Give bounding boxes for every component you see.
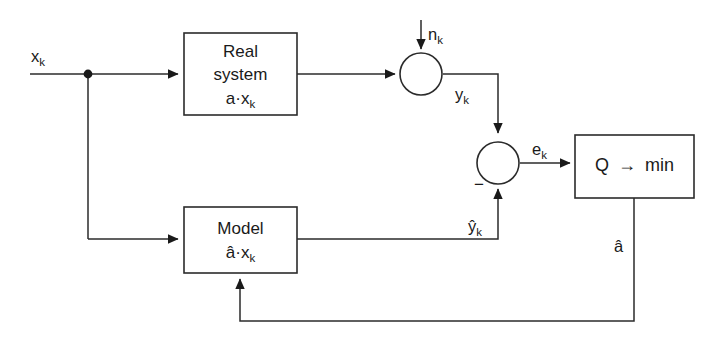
real-system-line1: Real: [223, 42, 258, 61]
wire-parameter-feedback: [240, 198, 634, 321]
label-noise-subscript: k: [437, 34, 443, 46]
label-output-signal: yk: [455, 85, 469, 106]
criterion-arrow-icon: →: [618, 155, 636, 175]
wire-output-to-sum-error: [443, 74, 498, 133]
block-diagram: Real system a·xk Model â·xk Q→min xk nk …: [0, 0, 726, 339]
summing-junction-noise: [400, 53, 442, 95]
label-noise-signal: nk: [428, 25, 443, 46]
label-output-subscript: k: [463, 94, 469, 106]
real-system-subscript: k: [249, 98, 255, 110]
label-parameter-signal: â: [614, 237, 624, 255]
label-input-subscript: k: [39, 56, 45, 68]
label-input-signal: xk: [31, 47, 45, 68]
label-noise-base: n: [428, 25, 437, 43]
criterion-left: Q: [595, 155, 609, 175]
sum-error-negative-sign: −: [474, 175, 484, 194]
branch-point-input: [84, 70, 93, 79]
label-error-base: e: [532, 140, 541, 158]
label-model-output-signal: ŷk: [468, 217, 482, 238]
label-error-subscript: k: [541, 149, 547, 161]
model-subscript: k: [249, 252, 255, 264]
label-model-output-subscript: k: [476, 226, 482, 238]
block-model: [184, 207, 297, 273]
label-parameter-base: â: [614, 237, 624, 255]
criterion-expression: Q→min: [595, 155, 674, 175]
model-line1: Model: [217, 219, 263, 238]
diagram-canvas: Real system a·xk Model â·xk Q→min xk nk …: [0, 0, 726, 339]
real-system-line2: system: [214, 65, 268, 84]
criterion-right: min: [645, 155, 674, 175]
label-error-signal: ek: [532, 140, 547, 161]
